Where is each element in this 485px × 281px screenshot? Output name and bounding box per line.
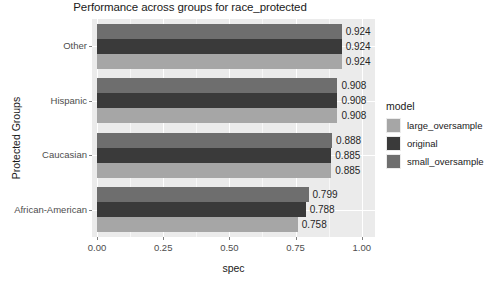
- legend-item-original[interactable]: original: [386, 135, 485, 152]
- legend-swatch-icon: [386, 154, 401, 169]
- bar-value-label: 0.924: [346, 24, 371, 39]
- chart-legend: model large_oversampleoriginalsmall_over…: [386, 100, 485, 171]
- bar-caucasian-small_oversample: [97, 133, 332, 148]
- x-tick-mark: [97, 237, 98, 240]
- bar-african-american-original: [97, 202, 306, 217]
- bar-african-american-large_oversample: [97, 217, 298, 232]
- bar-value-label: 0.799: [313, 187, 338, 202]
- legend-swatch-icon: [386, 136, 401, 151]
- y-tick-mark: [89, 155, 92, 156]
- bar-other-large_oversample: [97, 54, 342, 69]
- y-tick-label-other: Other: [63, 40, 87, 52]
- bar-african-american-small_oversample: [97, 187, 309, 202]
- bar-value-label: 0.924: [346, 39, 371, 54]
- bar-caucasian-large_oversample: [97, 163, 331, 178]
- chart-title: Performance across groups for race_prote…: [0, 1, 380, 13]
- bar-hispanic-small_oversample: [97, 78, 337, 93]
- bar-value-label: 0.885: [335, 163, 360, 178]
- y-tick-label-caucasian: Caucasian: [42, 149, 87, 161]
- bar-value-label: 0.788: [310, 202, 335, 217]
- x-tick-label-0.25: 0.25: [143, 242, 183, 253]
- legend-label: large_oversample: [407, 120, 483, 131]
- bar-value-label: 0.908: [341, 108, 366, 123]
- x-tick-mark: [296, 237, 297, 240]
- legend-label: small_oversample: [407, 156, 484, 167]
- bar-value-label: 0.885: [335, 148, 360, 163]
- bar-value-label: 0.908: [341, 78, 366, 93]
- y-tick-mark: [89, 46, 92, 47]
- y-tick-label-african-american: African-American: [14, 204, 87, 216]
- y-tick-label-hispanic: Hispanic: [51, 95, 87, 107]
- y-tick-mark: [89, 210, 92, 211]
- legend-swatch-icon: [386, 118, 401, 133]
- bar-value-label: 0.924: [346, 54, 371, 69]
- x-tick-label-1.00: 1.00: [342, 242, 382, 253]
- legend-label: original: [407, 138, 438, 149]
- x-tick-mark: [163, 237, 164, 240]
- bar-other-small_oversample: [97, 24, 342, 39]
- legend-item-large_oversample[interactable]: large_oversample: [386, 117, 485, 134]
- legend-title: model: [386, 100, 485, 112]
- y-tick-mark: [89, 101, 92, 102]
- x-tick-label-0.75: 0.75: [276, 242, 316, 253]
- chart-container: Performance across groups for race_prote…: [0, 0, 485, 281]
- bar-value-label: 0.908: [341, 93, 366, 108]
- legend-items: large_oversampleoriginalsmall_oversample: [386, 117, 485, 170]
- x-tick-mark: [229, 237, 230, 240]
- bar-value-label: 0.888: [336, 133, 361, 148]
- bar-hispanic-original: [97, 93, 337, 108]
- x-tick-label-0.00: 0.00: [77, 242, 117, 253]
- bar-value-label: 0.758: [302, 217, 327, 232]
- y-axis-title: Protected Groups: [10, 78, 22, 198]
- bar-other-original: [97, 39, 342, 54]
- x-tick-mark: [362, 237, 363, 240]
- x-axis-title: spec: [92, 262, 375, 274]
- legend-item-small_oversample[interactable]: small_oversample: [386, 153, 485, 170]
- bar-caucasian-original: [97, 148, 331, 163]
- x-tick-label-0.50: 0.50: [209, 242, 249, 253]
- bar-hispanic-large_oversample: [97, 108, 337, 123]
